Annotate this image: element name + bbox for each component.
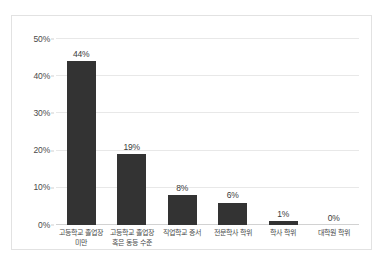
y-tick-mark bbox=[51, 225, 54, 226]
x-category-label: 학사 학위 bbox=[258, 228, 309, 258]
bar-value-label: 44% bbox=[73, 50, 89, 59]
bar-slot[interactable]: 8% bbox=[157, 39, 208, 225]
bar-slot[interactable]: 0% bbox=[309, 39, 360, 225]
y-tick-label: 40% bbox=[34, 72, 50, 81]
y-tick-label: 30% bbox=[34, 109, 50, 118]
bar-value-label: 8% bbox=[176, 184, 188, 193]
y-tick-label: 0% bbox=[38, 221, 50, 230]
y-tick-mark bbox=[51, 39, 54, 40]
bar[interactable] bbox=[168, 195, 197, 225]
y-tick-mark bbox=[51, 76, 54, 77]
bar-value-label: 6% bbox=[227, 191, 239, 200]
bar-value-label: 0% bbox=[328, 214, 340, 223]
bar[interactable] bbox=[117, 154, 146, 225]
bar-slot[interactable]: 44% bbox=[56, 39, 107, 225]
x-category-label: 고등학교 졸업장 미만 bbox=[56, 228, 107, 258]
y-axis: 0%10%20%30%40%50% bbox=[23, 39, 54, 225]
y-tick-mark bbox=[51, 187, 54, 188]
figure-caption bbox=[11, 263, 385, 272]
bar-slot[interactable]: 19% bbox=[107, 39, 158, 225]
x-category-label: 전문학사 학위 bbox=[208, 228, 259, 258]
bar[interactable] bbox=[269, 221, 298, 225]
bar-value-label: 19% bbox=[124, 143, 140, 152]
chart-frame: 0%10%20%30%40%50% 44%19%8%6%1%0% 고등학교 졸업… bbox=[11, 15, 372, 250]
x-category-label: 직업학교 증서 bbox=[157, 228, 208, 258]
y-tick-mark bbox=[51, 150, 54, 151]
x-category-label: 대학원 학위 bbox=[309, 228, 360, 258]
x-axis-labels: 고등학교 졸업장 미만고등학교 졸업장 혹은 동등 수준직업학교 증서전문학사 … bbox=[56, 228, 359, 258]
y-tick-label: 50% bbox=[34, 35, 50, 44]
bar[interactable] bbox=[218, 203, 247, 225]
y-tick-label: 10% bbox=[34, 184, 50, 193]
bar-value-label: 1% bbox=[277, 210, 289, 219]
bars-layer: 44%19%8%6%1%0% bbox=[56, 39, 359, 225]
y-tick-label: 20% bbox=[34, 146, 50, 155]
x-category-label: 고등학교 졸업장 혹은 동등 수준 bbox=[107, 228, 158, 258]
y-tick-mark bbox=[51, 113, 54, 114]
plot-area: 44%19%8%6%1%0% bbox=[56, 39, 359, 225]
bar-slot[interactable]: 1% bbox=[258, 39, 309, 225]
bar-slot[interactable]: 6% bbox=[208, 39, 259, 225]
bar[interactable] bbox=[67, 61, 96, 225]
